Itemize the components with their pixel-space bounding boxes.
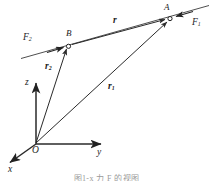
vector-r-arrow (72, 20, 165, 45)
point-b-label: B (66, 29, 72, 38)
vector-r-label: r (113, 16, 117, 26)
point-a-label: A (164, 3, 170, 12)
force-f1-subscript: 1 (198, 21, 201, 27)
force-f2-label: F2 (23, 33, 32, 43)
force-f2-subscript: 2 (29, 36, 32, 42)
figure-caption: 图1-x 力 F 的视图 (0, 172, 213, 181)
vector-r1-label: r1 (108, 82, 115, 92)
origin-label: O (32, 146, 39, 156)
line-of-action (21, 6, 209, 59)
vector-r2-subscript: 2 (49, 65, 52, 71)
axis-y-label: y (97, 148, 101, 158)
vector-r2-label: r2 (45, 62, 52, 72)
force-f2-arrow (47, 48, 64, 53)
point-a-marker (168, 17, 172, 21)
point-b-marker (66, 44, 70, 48)
force-f1-label: F1 (192, 18, 201, 28)
vector-r1-subscript: 1 (112, 85, 115, 91)
figure-container: F2 F1 B A r r2 r1 O z y x 图1-x 力 F 的视图 (0, 0, 213, 181)
axis-z-label: z (25, 78, 29, 88)
